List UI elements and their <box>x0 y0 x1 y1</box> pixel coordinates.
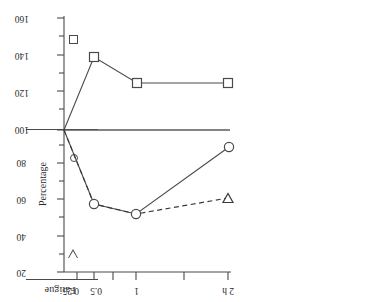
x-axis-ticks <box>77 272 228 280</box>
square-series-markers <box>90 53 233 88</box>
chart-canvas <box>0 0 367 302</box>
y-axis-ticks <box>57 18 64 272</box>
circle-series-line <box>64 130 229 214</box>
plot-area: Percentage 20 40 60 80 100 120 140 160 0… <box>117 0 367 302</box>
rotated-figure: Fatigue Percentage 20 40 60 80 100 120 1… <box>0 0 367 302</box>
triangle-series-line <box>64 130 228 214</box>
square-series-line <box>64 57 228 130</box>
circle-series-markers <box>89 142 233 218</box>
